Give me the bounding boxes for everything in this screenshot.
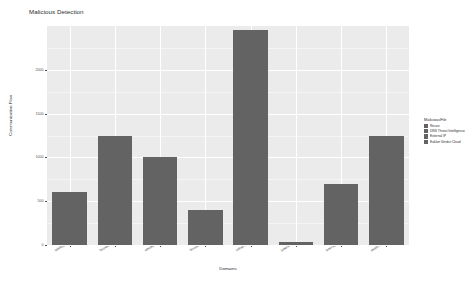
y-tick-label: 2000 [35,68,43,72]
legend-item-label: Recon [430,124,440,128]
y-tick-label: 1500 [35,112,43,116]
gridline-y [47,245,409,246]
legend-item-label: Eaklon Verdict Cloud [430,140,461,144]
chart-root: Malicious Detection Communication Flow D… [0,0,469,281]
bar[interactable] [279,242,313,245]
bar[interactable] [188,210,222,245]
bar[interactable] [369,136,403,246]
legend-title: MaliciousFile [424,117,469,122]
legend-swatch-icon [424,134,428,138]
legend-item-list: ReconDNS Threat IntelligenceExternal IPE… [424,124,469,144]
bar[interactable] [324,184,358,245]
chart-title: Malicious Detection [29,8,84,15]
legend-item-label: DNS Threat Intelligence [430,129,465,133]
legend-item[interactable]: DNS Threat Intelligence [424,129,469,134]
legend-swatch-icon [424,124,428,128]
gridline-y-minor [47,92,409,93]
gridline-y-minor [47,48,409,49]
legend-swatch-icon [424,140,428,144]
bar[interactable] [233,30,267,245]
y-tick-label: 0 [41,243,43,247]
legend-item[interactable]: External IP [424,134,469,139]
legend-item[interactable]: Recon [424,124,469,129]
x-axis-title: Domains [0,266,456,271]
legend-item[interactable]: Eaklon Verdict Cloud [424,139,469,144]
gridline-y [47,70,409,71]
gridline-y [47,114,409,115]
legend: MaliciousFile ReconDNS Threat Intelligen… [424,117,469,145]
y-axis-title: Communication Flow [8,95,13,136]
gridline-x [296,26,297,245]
legend-item-label: External IP [430,134,446,138]
plot-panel [47,26,409,245]
y-tick-label: 1000 [35,155,43,159]
bar[interactable] [98,136,132,246]
bar[interactable] [52,192,86,245]
bar[interactable] [143,157,177,245]
y-tick-label: 500 [37,199,43,203]
legend-swatch-icon [424,129,428,133]
